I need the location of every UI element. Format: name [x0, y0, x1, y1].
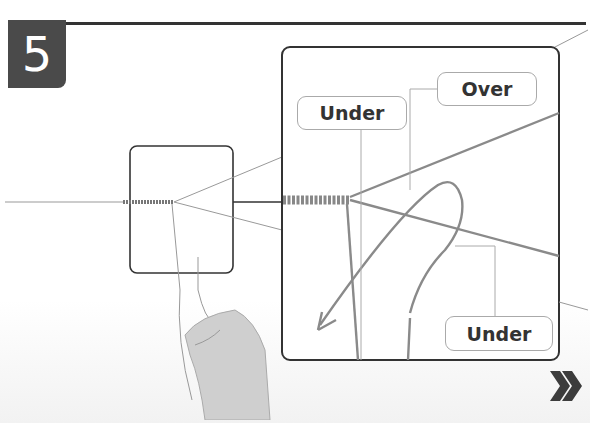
label-under-top: Under: [297, 96, 407, 130]
small-detail-frame: [130, 146, 233, 273]
label-over: Over: [437, 72, 537, 106]
next-step-icon[interactable]: [546, 365, 582, 407]
knot-diagram: [0, 0, 610, 440]
hand-illustration: [180, 300, 280, 420]
label-under-bottom: Under: [445, 316, 553, 351]
